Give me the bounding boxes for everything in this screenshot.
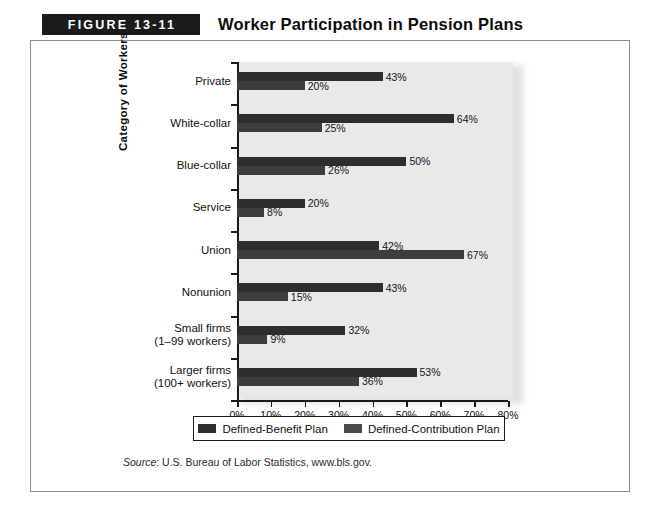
bar-value-label: 25% xyxy=(325,124,346,133)
y-axis-tick xyxy=(231,104,238,106)
source-note: Source: U.S. Bureau of Labor Statistics,… xyxy=(123,456,372,468)
bar-value-label: 20% xyxy=(308,82,329,91)
y-axis-category-label: Nonunion xyxy=(41,286,231,299)
legend-swatch-icon-benefit xyxy=(198,424,216,433)
category-label-line: (100+ workers) xyxy=(41,377,231,390)
source-prefix: Source xyxy=(123,456,156,468)
bar-value-label: 64% xyxy=(457,115,478,124)
y-axis-category-label: Larger firms(100+ workers) xyxy=(41,364,231,390)
x-axis-tick xyxy=(271,401,273,407)
x-axis-tick xyxy=(406,401,408,407)
y-axis-tick xyxy=(231,358,238,360)
bar-value-label: 9% xyxy=(270,335,285,344)
bar-value-label: 53% xyxy=(420,368,441,377)
legend-label-contribution: Defined-Contribution Plan xyxy=(368,423,500,435)
bar-contribution xyxy=(237,166,325,175)
bar-value-label: 32% xyxy=(348,326,369,335)
bar-contribution xyxy=(237,377,359,386)
legend-item-defined-contribution: Defined-Contribution Plan xyxy=(344,423,500,435)
bar-benefit xyxy=(237,241,379,250)
category-label-line: Small firms xyxy=(41,322,231,335)
bar-value-label: 43% xyxy=(386,73,407,82)
y-axis-category-label: Small firms(1–99 workers) xyxy=(41,322,231,348)
bar-value-label: 20% xyxy=(308,199,329,208)
bar-value-label: 8% xyxy=(267,208,282,217)
category-label-line: Nonunion xyxy=(41,286,231,299)
legend-swatch-icon-contribution xyxy=(344,424,362,433)
y-axis-tick xyxy=(231,316,238,318)
chart-canvas: 43%20%64%25%50%26%20%8%42%67%43%15%32%9%… xyxy=(31,41,631,493)
bar-value-label: 43% xyxy=(386,284,407,293)
chart-legend: Defined-Benefit Plan Defined-Contributio… xyxy=(193,416,505,441)
y-axis-tick xyxy=(231,273,238,275)
x-axis-tick xyxy=(440,401,442,407)
y-axis-tick xyxy=(231,189,238,191)
bar-benefit xyxy=(237,326,345,335)
figure-title: Worker Participation in Pension Plans xyxy=(218,14,523,35)
category-label-line: (1–99 workers) xyxy=(41,335,231,348)
category-label-line: Blue-collar xyxy=(41,159,231,172)
bar-contribution xyxy=(237,292,288,301)
bar-value-label: 36% xyxy=(362,377,383,386)
y-axis-category-label: Union xyxy=(41,244,231,257)
bar-contribution xyxy=(237,208,264,217)
category-label-line: Service xyxy=(41,201,231,214)
bar-benefit xyxy=(237,157,406,166)
category-label-line: Union xyxy=(41,244,231,257)
category-label-line: Larger firms xyxy=(41,364,231,377)
x-axis-tick xyxy=(474,401,476,407)
category-label-line: White-collar xyxy=(41,117,231,130)
y-axis-title: Category of Workers xyxy=(117,32,129,151)
bar-contribution xyxy=(237,250,464,259)
bar-contribution xyxy=(237,81,305,90)
x-axis-tick xyxy=(237,401,239,407)
bar-value-label: 15% xyxy=(291,293,312,302)
bar-value-label: 26% xyxy=(328,166,349,175)
x-axis-tick xyxy=(339,401,341,407)
y-axis-tick xyxy=(231,231,238,233)
category-label-line: Private xyxy=(41,75,231,88)
x-axis-tick xyxy=(508,401,510,407)
y-axis-category-label: White-collar xyxy=(41,117,231,130)
bar-contribution xyxy=(237,335,267,344)
legend-label-benefit: Defined-Benefit Plan xyxy=(222,423,327,435)
y-axis-tick xyxy=(231,147,238,149)
source-text: : U.S. Bureau of Labor Statistics, www.b… xyxy=(156,456,372,468)
y-axis-category-label: Blue-collar xyxy=(41,159,231,172)
figure-frame: 43%20%64%25%50%26%20%8%42%67%43%15%32%9%… xyxy=(30,40,630,492)
bar-value-label: 67% xyxy=(467,251,488,260)
legend-item-defined-benefit: Defined-Benefit Plan xyxy=(198,423,327,435)
bar-contribution xyxy=(237,123,322,132)
bar-benefit xyxy=(237,368,417,377)
y-axis-category-label: Service xyxy=(41,201,231,214)
figure-header: FIGURE 13-11 Worker Participation in Pen… xyxy=(0,0,658,44)
bar-value-label: 50% xyxy=(409,157,430,166)
x-axis-tick xyxy=(305,401,307,407)
y-axis-tick xyxy=(231,62,238,64)
y-axis-category-label: Private xyxy=(41,75,231,88)
x-axis-tick xyxy=(373,401,375,407)
